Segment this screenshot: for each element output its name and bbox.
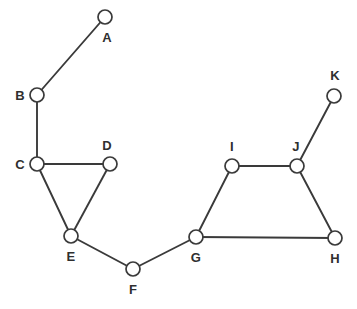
- graph-node-C[interactable]: [30, 157, 44, 171]
- node-label-G: G: [191, 251, 201, 264]
- node-label-A: A: [102, 31, 112, 44]
- graph-edge-E-F: [71, 236, 133, 269]
- graph-edge-J-H: [297, 166, 335, 238]
- graph-node-E[interactable]: [64, 229, 78, 243]
- graph-node-H[interactable]: [328, 231, 342, 245]
- graph-node-G[interactable]: [189, 230, 203, 244]
- edges-group: [37, 17, 335, 269]
- graph-edge-D-E: [71, 164, 110, 236]
- node-label-I: I: [230, 140, 234, 153]
- node-label-B: B: [15, 89, 25, 102]
- graph-canvas: [0, 0, 357, 309]
- graph-node-K[interactable]: [327, 89, 341, 103]
- graph-edge-G-I: [196, 166, 232, 237]
- clipped-caption-strip: [0, 300, 357, 309]
- graph-edge-C-E: [37, 164, 71, 236]
- graph-edge-J-K: [297, 96, 334, 166]
- graph-node-D[interactable]: [103, 157, 117, 171]
- graph-node-A[interactable]: [98, 10, 112, 24]
- graph-node-B[interactable]: [30, 88, 44, 102]
- node-label-C: C: [15, 158, 25, 171]
- node-label-E: E: [67, 250, 76, 263]
- graph-node-F[interactable]: [126, 262, 140, 276]
- node-label-H: H: [330, 252, 340, 265]
- graph-node-I[interactable]: [225, 159, 239, 173]
- graph-edge-A-B: [37, 17, 105, 95]
- node-label-F: F: [129, 283, 137, 296]
- graph-edge-G-H: [196, 237, 335, 238]
- graph-node-J[interactable]: [290, 159, 304, 173]
- node-label-J: J: [292, 140, 299, 153]
- graph-figure: ABCDEFGHIJK: [0, 0, 357, 309]
- graph-edge-F-G: [133, 237, 196, 269]
- node-label-D: D: [102, 139, 112, 152]
- node-label-K: K: [330, 69, 340, 82]
